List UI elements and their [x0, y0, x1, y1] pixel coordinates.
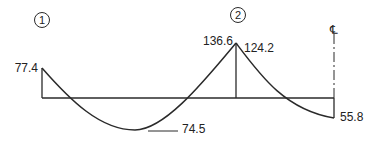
support-2-right-moment-label: 124.2: [244, 41, 274, 55]
svg-text:1: 1: [39, 14, 45, 26]
moment-curve-span-1: [42, 43, 236, 130]
support-2-marker: 2: [231, 8, 246, 23]
centerline-moment-label: 55.8: [340, 110, 364, 124]
svg-text:2: 2: [235, 9, 241, 21]
moment-diagram: 1 2 ℄ 77.4 74.5 136.6 124.2 55.8: [0, 0, 377, 141]
span-min-moment-label: 74.5: [182, 122, 206, 136]
left-end-moment-label: 77.4: [15, 61, 39, 75]
support-1-marker: 1: [35, 13, 50, 28]
support-2-left-moment-label: 136.6: [203, 34, 233, 48]
centerline-symbol: ℄: [329, 23, 338, 37]
